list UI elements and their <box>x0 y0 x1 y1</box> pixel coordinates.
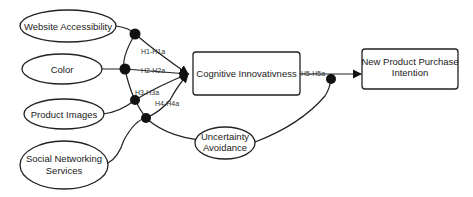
label-h3: H3-H3a <box>135 89 159 96</box>
svg-text:Services: Services <box>46 165 83 176</box>
label-h1: H1-H1a <box>141 48 165 55</box>
node-color: Color <box>22 54 102 84</box>
svg-text:Intention: Intention <box>392 67 428 78</box>
node-new-product-purchase-intention: New Product Purchase Intention <box>361 49 458 89</box>
junction-dot-h2 <box>120 64 131 75</box>
svg-text:Uncertainty: Uncertainty <box>201 131 249 142</box>
node-uncertainty-avoidance: Uncertainty Avoidance <box>195 127 255 159</box>
svg-text:New Product Purchase: New Product Purchase <box>361 56 458 67</box>
node-social-networking-services: Social Networking Services <box>20 141 108 189</box>
svg-text:Social Networking: Social Networking <box>26 153 102 164</box>
svg-text:Color: Color <box>51 64 74 75</box>
svg-text:Product Images: Product Images <box>31 109 98 120</box>
junction-dot-h1 <box>130 29 141 40</box>
junction-dot-h4 <box>141 113 151 123</box>
label-h2: H2-H2a <box>141 67 165 74</box>
research-model-diagram: H1-H1a H2-H2a H3-H3a H4-H4a H5-H5a Websi… <box>0 0 473 197</box>
svg-text:Website Accessibility: Website Accessibility <box>24 21 112 32</box>
junction-dot-h3 <box>130 95 140 105</box>
node-product-images: Product Images <box>24 99 104 129</box>
svg-text:Avoidance: Avoidance <box>203 142 247 153</box>
svg-text:Cognitive Innovativness: Cognitive Innovativness <box>196 68 297 79</box>
label-h5: H5-H5a <box>301 70 325 77</box>
node-cognitive-innovativeness: Cognitive Innovativness <box>193 52 300 95</box>
node-website-accessibility: Website Accessibility <box>20 10 116 42</box>
junction-dot-h5 <box>326 74 336 84</box>
label-h4: H4-H4a <box>155 100 179 107</box>
